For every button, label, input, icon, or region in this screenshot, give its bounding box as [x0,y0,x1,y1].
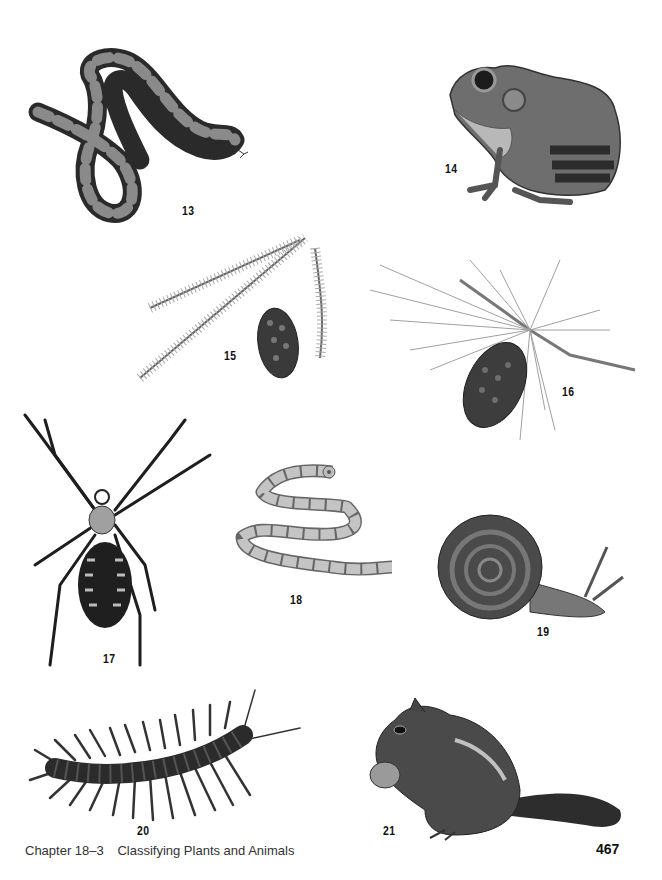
chapter-title: Classifying Plants and Animals [117,843,294,858]
figure-snake: 13 [30,50,260,220]
chapter-section: Chapter 18–3 [25,843,104,858]
page-footer: Chapter 18–3 Classifying Plants and Anim… [25,843,294,858]
figure-number: 16 [562,384,574,399]
figure-number: 17 [103,651,115,666]
centipede-illustration [25,690,305,840]
figure-number: 18 [290,592,302,607]
chipmunk-illustration [355,690,635,840]
snake-illustration [30,50,260,220]
figure-tapeworm: 18 [232,462,402,612]
figure-number: 13 [182,203,194,218]
figure-number: 19 [537,624,549,639]
figure-centipede: 20 [25,690,305,840]
spider-illustration [15,415,215,675]
spruce-branch-illustration [130,228,340,398]
figure-number: 20 [137,823,149,838]
figure-frog: 14 [440,50,640,210]
snail-illustration [435,512,635,672]
figure-number: 14 [445,161,457,176]
figure-number: 15 [224,348,236,363]
figure-pine-branch: 16 [370,260,640,450]
figure-chipmunk: 21 [355,690,635,840]
figure-snail: 19 [435,512,635,672]
pine-branch-illustration [370,260,640,450]
figure-number: 21 [383,823,395,838]
figure-spruce-branch: 15 [130,228,340,398]
figure-spider: 17 [15,415,215,675]
page-number: 467 [596,841,619,857]
tapeworm-illustration [232,462,402,612]
frog-illustration [440,50,640,210]
